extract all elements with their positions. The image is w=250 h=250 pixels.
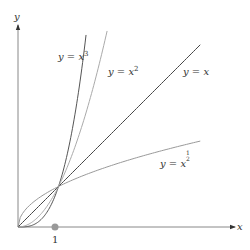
square-label-exponent: 2: [134, 65, 138, 73]
curve-label-square: y = x2: [108, 66, 139, 77]
sqrt-label-base: y = x: [160, 158, 186, 169]
curve-label-linear: y = x: [183, 67, 209, 77]
curve-label-sqrt: y = x12: [160, 150, 190, 169]
x-axis-label: x: [237, 222, 243, 232]
y-axis-label: y: [14, 12, 20, 22]
cube-label-base: y = x: [58, 51, 84, 62]
tick-marker-one: [52, 224, 59, 231]
curve-label-cube: y = x3: [58, 51, 89, 62]
x-tick-label-one: 1: [52, 235, 58, 245]
curves-group: [18, 31, 200, 227]
power-functions-chart: [0, 0, 250, 250]
sqrt-label-exponent: 12: [186, 150, 190, 162]
cube-label-exponent: 3: [84, 50, 88, 58]
square-label-base: y = x: [108, 66, 134, 77]
